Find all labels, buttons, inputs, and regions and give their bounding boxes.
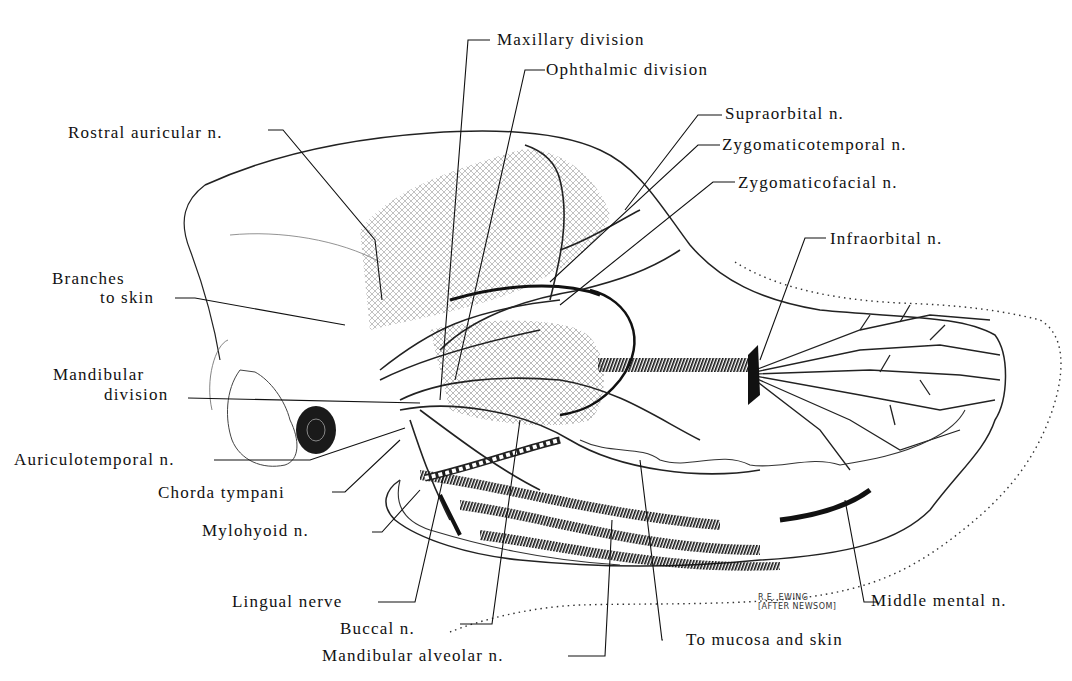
- label-branches-to-skin-line1: Branches: [52, 270, 125, 288]
- label-maxillary-division: Maxillary division: [497, 31, 645, 49]
- muscle-band: [598, 358, 748, 372]
- label-mandibular-alveolar: Mandibular alveolar n.: [322, 647, 504, 665]
- label-branches-to-skin-line2: to skin: [100, 289, 154, 307]
- label-rostral-auricular: Rostral auricular n.: [68, 124, 223, 142]
- label-zygomaticotemporal: Zygomaticotemporal n.: [722, 136, 907, 154]
- label-zygomaticofacial: Zygomaticofacial n.: [738, 174, 898, 192]
- label-ophthalmic-division: Ophthalmic division: [546, 61, 708, 79]
- anatomical-illustration: [0, 0, 1072, 681]
- artist-signature: R.E. EWING [AFTER NEWSOM]: [758, 593, 836, 611]
- label-mandibular-division-line2: division: [104, 386, 168, 404]
- infraorbital-branches: [755, 305, 1000, 470]
- ear-canal-icon: [296, 406, 336, 454]
- label-middle-mental: Middle mental n.: [871, 592, 1007, 610]
- label-chorda-tympani: Chorda tympani: [158, 484, 285, 502]
- ear-region: [227, 370, 336, 466]
- label-mylohyoid: Mylohyoid n.: [202, 522, 309, 540]
- label-lingual-nerve: Lingual nerve: [232, 593, 342, 611]
- label-infraorbital: Infraorbital n.: [830, 230, 942, 248]
- label-mandibular-division-line1: Mandibular: [53, 366, 144, 384]
- label-to-mucosa-and-skin: To mucosa and skin: [686, 631, 843, 649]
- label-supraorbital: Supraorbital n.: [725, 105, 844, 123]
- label-auriculotemporal: Auriculotemporal n.: [14, 451, 175, 469]
- label-buccal: Buccal n.: [340, 620, 415, 638]
